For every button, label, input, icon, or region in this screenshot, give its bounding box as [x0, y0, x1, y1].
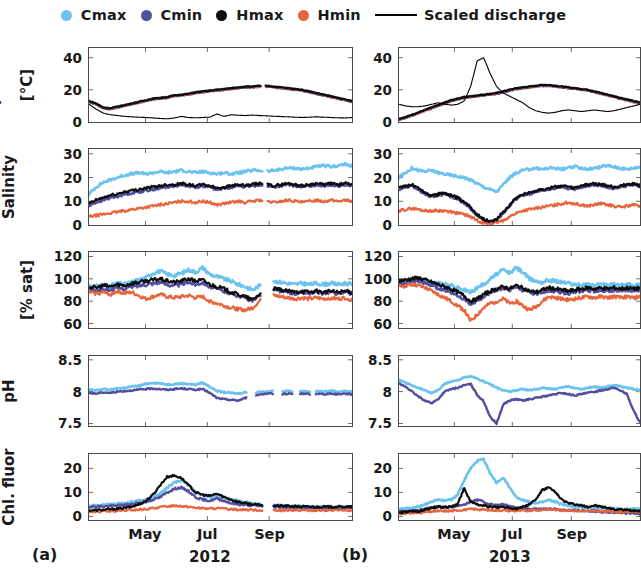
y-tick-ph-b: 8: [352, 384, 392, 400]
y-tick-chl-b: 10: [352, 484, 392, 500]
x-tick-a-may: May: [128, 526, 161, 542]
legend-label: Hmax: [236, 7, 283, 23]
axis-unit-temperature: [°C]: [18, 25, 36, 145]
figure-legend: CmaxCminHmaxHminScaled discharge: [0, 0, 641, 30]
panel-label-a: (a): [32, 545, 57, 564]
legend-dot-icon: [141, 10, 152, 21]
y-tick-ph-b: 7.5: [352, 415, 392, 431]
y-tick-do-b: 80: [352, 293, 392, 309]
legend-item-hmax: Hmax: [216, 7, 283, 23]
plot-panel-a-salinity: [88, 148, 353, 226]
plot-panel-b-do: [398, 251, 641, 329]
y-tick-temperature-b: 0: [352, 114, 392, 130]
axis-unit-do: [% sat]: [18, 230, 36, 350]
y-tick-chl-a: 0: [42, 508, 82, 524]
panel-label-b: (b): [342, 545, 368, 564]
y-tick-chl-a: 10: [42, 484, 82, 500]
plot-panel-b-chl: [398, 453, 641, 521]
y-tick-do-b: 120: [352, 248, 392, 264]
x-tick-a-jul: Jul: [197, 526, 218, 542]
y-tick-do-b: 60: [352, 316, 392, 332]
legend-dot-icon: [216, 10, 227, 21]
legend-label: Scaled discharge: [424, 7, 566, 23]
y-tick-do-a: 100: [42, 271, 82, 287]
year-label-b: 2013: [489, 548, 531, 566]
legend-item-hmin: Hmin: [298, 7, 361, 23]
axis-label-chl: Chl. fluor: [0, 427, 18, 547]
y-tick-temperature-a: 40: [42, 50, 82, 66]
plot-panel-a-chl: [88, 453, 353, 521]
x-tick-b-sep: Sep: [556, 526, 587, 542]
legend-item-cmax: Cmax: [61, 7, 127, 23]
y-tick-chl-a: 20: [42, 460, 82, 476]
plot-panel-b-ph: [398, 355, 641, 427]
y-tick-do-a: 120: [42, 248, 82, 264]
y-tick-ph-a: 8: [42, 384, 82, 400]
axis-label-salinity: Salinity: [0, 127, 18, 247]
y-tick-salinity-a: 20: [42, 170, 82, 186]
panel-column-b: 40200302010012010080608.587.520100MayJul…: [356, 30, 641, 530]
legend-line-icon: [375, 14, 417, 16]
y-tick-salinity-b: 20: [352, 170, 392, 186]
legend-dot-icon: [61, 10, 72, 21]
legend-item-scaled-discharge: Scaled discharge: [375, 7, 566, 23]
x-tick-a-sep: Sep: [254, 526, 285, 542]
y-tick-salinity-a: 10: [42, 193, 82, 209]
y-tick-salinity-a: 0: [42, 217, 82, 233]
y-tick-ph-a: 8.5: [42, 352, 82, 368]
panel-column-a: 40200Temperature[°C]3020100Salinity12010…: [0, 30, 356, 530]
y-tick-salinity-b: 30: [352, 146, 392, 162]
y-tick-do-a: 60: [42, 316, 82, 332]
y-tick-salinity-a: 30: [42, 146, 82, 162]
legend-dot-icon: [298, 10, 309, 21]
y-tick-chl-b: 0: [352, 508, 392, 524]
y-tick-salinity-b: 0: [352, 217, 392, 233]
y-tick-temperature-b: 40: [352, 50, 392, 66]
year-label-a: 2012: [189, 548, 231, 566]
y-tick-ph-b: 8.5: [352, 352, 392, 368]
legend-item-cmin: Cmin: [141, 7, 203, 23]
plot-panel-a-do: [88, 251, 353, 329]
y-tick-temperature-b: 20: [352, 82, 392, 98]
y-tick-chl-b: 20: [352, 460, 392, 476]
y-tick-temperature-a: 20: [42, 82, 82, 98]
y-tick-do-a: 80: [42, 293, 82, 309]
y-tick-do-b: 100: [352, 271, 392, 287]
plot-panel-a-ph: [88, 355, 353, 427]
y-tick-salinity-b: 10: [352, 193, 392, 209]
y-tick-ph-a: 7.5: [42, 415, 82, 431]
plot-panel-a-temperature: [88, 47, 353, 123]
legend-label: Cmin: [161, 7, 203, 23]
plot-panel-b-salinity: [398, 148, 641, 226]
x-tick-b-jul: Jul: [502, 526, 523, 542]
x-tick-b-may: May: [437, 526, 470, 542]
legend-label: Hmin: [318, 7, 361, 23]
legend-label: Cmax: [81, 7, 127, 23]
y-tick-temperature-a: 0: [42, 114, 82, 130]
plot-panel-b-temperature: [398, 47, 641, 123]
